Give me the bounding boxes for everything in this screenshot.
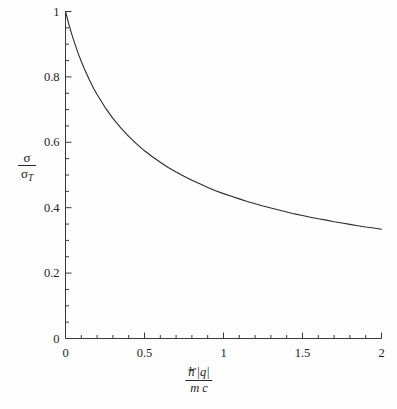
y-axis-title-denominator: σT (18, 166, 36, 183)
y-axis-title-numerator: σ (18, 151, 36, 166)
x-axis-title-denominator: m c (185, 381, 212, 395)
x-axis-title-fraction: h|q| m c (185, 366, 212, 394)
y-axis-title-fraction: σ σT (18, 151, 36, 183)
y-tick-label: 0 (53, 332, 59, 345)
y-tick-label: 0.2 (44, 267, 60, 280)
x-tick-label: 0.5 (137, 347, 153, 360)
y-axis-title-denominator-subscript: T (28, 173, 33, 183)
hbar-symbol: h (188, 366, 194, 379)
x-tick-label: 1.5 (295, 347, 311, 360)
axis-lines (66, 12, 382, 339)
y-tick-label: 0.6 (44, 136, 60, 149)
momentum-magnitude-symbol: |q| (197, 365, 210, 379)
x-axis-title-numerator: h|q| (185, 366, 212, 381)
chart-figure: 00.511.52 00.20.40.60.81 σ σT h|q| m c (0, 0, 397, 409)
y-tick-label: 1 (53, 5, 59, 18)
data-curve (66, 12, 382, 230)
x-tick-label: 2 (378, 347, 384, 360)
x-tick-label: 1 (220, 347, 226, 360)
curve-series-0 (66, 12, 382, 230)
y-axis-title-denominator-base: σ (21, 166, 28, 181)
x-axis-title: h|q| m c (185, 366, 212, 394)
y-tick-label: 0.8 (44, 71, 60, 84)
y-axis-ticks (66, 12, 72, 339)
y-axis-title: σ σT (18, 151, 36, 183)
x-tick-label: 0 (62, 347, 68, 360)
y-tick-label: 0.4 (44, 201, 60, 214)
x-axis-ticks (66, 333, 382, 339)
